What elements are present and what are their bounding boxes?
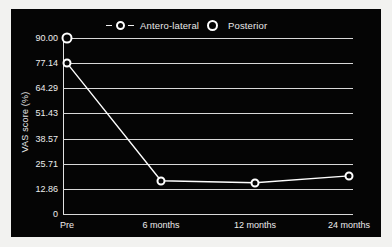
plot-area: 012.8625.7138.5751.4364.2977.1490.00 Pre… <box>63 38 353 214</box>
y-axis-label: VAS score (%) <box>20 82 30 162</box>
x-tick-label: 6 months <box>142 220 179 230</box>
y-tick-label: 38.57 <box>35 134 58 144</box>
series-line-0 <box>67 63 349 183</box>
data-point-marker[interactable] <box>251 178 260 187</box>
legend-label-antero-lateral: Antero-lateral <box>140 20 199 31</box>
y-tick-label: 12.86 <box>35 184 58 194</box>
x-tick-label: 24 months <box>328 220 370 230</box>
data-point-marker[interactable] <box>345 171 354 180</box>
y-tick-label: 64.29 <box>35 83 58 93</box>
data-point-marker[interactable] <box>157 176 166 185</box>
bold-open-circle-icon <box>207 20 218 31</box>
gridline <box>63 214 353 215</box>
y-tick-label: 51.43 <box>35 108 58 118</box>
chart-screenshot: Antero-lateral Posterior VAS score (%) 0… <box>0 0 392 247</box>
open-circle-icon <box>105 18 135 32</box>
data-point-marker[interactable] <box>63 59 72 68</box>
y-tick-label: 25.71 <box>35 159 58 169</box>
y-tick-label: 0 <box>53 209 58 219</box>
legend-label-posterior: Posterior <box>228 20 267 31</box>
x-tick-label: Pre <box>60 220 74 230</box>
series-lines <box>63 38 353 214</box>
legend-item-posterior[interactable]: Posterior <box>207 14 267 36</box>
x-tick-label: 12 months <box>234 220 276 230</box>
legend-item-antero-lateral[interactable]: Antero-lateral <box>105 14 199 36</box>
chart-panel: Antero-lateral Posterior VAS score (%) 0… <box>11 9 381 237</box>
data-point-marker[interactable] <box>62 33 73 44</box>
y-tick-label: 90.00 <box>35 33 58 43</box>
y-tick-label: 77.14 <box>35 58 58 68</box>
